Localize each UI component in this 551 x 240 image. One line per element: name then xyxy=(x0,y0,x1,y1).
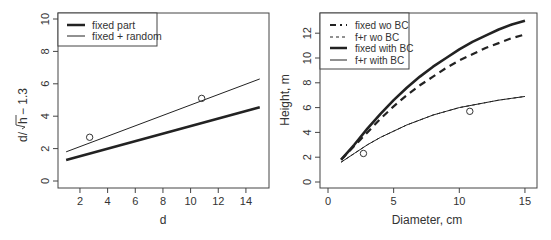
right-plot: 051015 024681012 Diameter, cm Height, m … xyxy=(278,13,537,227)
x-tick-label: 10 xyxy=(184,195,196,207)
left-y-label-suffix: − 1.3 xyxy=(16,88,30,115)
observation-point xyxy=(86,134,92,140)
y-tick-label: 0 xyxy=(39,178,51,184)
y-tick-label: 6 xyxy=(301,105,313,111)
left-x-axis-label: d xyxy=(160,213,167,227)
legend-label-fr-with-bc: f+r with BC xyxy=(355,55,404,66)
y-tick-label: 6 xyxy=(39,81,51,87)
x-tick-label: 6 xyxy=(132,195,138,207)
right-y-axis-label: Height, m xyxy=(278,74,292,125)
observation-point xyxy=(360,150,366,156)
x-tick-label: 0 xyxy=(325,195,331,207)
y-tick-label: 4 xyxy=(301,129,313,135)
x-tick-label: 5 xyxy=(391,195,397,207)
x-tick-label: 10 xyxy=(453,195,465,207)
figure-canvas: 2468101214 0246810 d d/ h − 1.3 fixed pa… xyxy=(0,0,551,240)
left-legend: fixed part fixed + random xyxy=(58,13,162,46)
right-x-axis-label: Diameter, cm xyxy=(392,213,463,227)
observation-point xyxy=(467,108,473,114)
x-tick-label: 14 xyxy=(240,195,252,207)
right-legend: fixed wo BC f+r wo BC fixed with BC f+r … xyxy=(320,13,413,69)
y-tick-label: 10 xyxy=(301,52,313,64)
left-x-axis: 2468101214 xyxy=(77,188,252,207)
right-observations xyxy=(360,108,473,157)
left-observations xyxy=(86,95,204,140)
left-y-label-root: h xyxy=(16,117,30,124)
y-tick-label: 12 xyxy=(301,27,313,39)
left-y-label-prefix: d/ xyxy=(16,131,30,142)
y-tick-label: 8 xyxy=(301,80,313,86)
left-plot: 2468101214 0246810 d d/ h − 1.3 fixed pa… xyxy=(16,13,269,227)
left-series xyxy=(66,79,260,160)
legend-label-fixed-wo-bc: fixed wo BC xyxy=(355,20,408,31)
x-tick-label: 2 xyxy=(77,195,83,207)
y-tick-label: 10 xyxy=(39,13,51,25)
y-tick-label: 8 xyxy=(39,48,51,54)
y-tick-label: 2 xyxy=(39,146,51,152)
x-tick-label: 15 xyxy=(519,195,531,207)
legend-label-fr-wo-bc: f+r wo BC xyxy=(355,32,399,43)
y-tick-label: 2 xyxy=(301,154,313,160)
y-tick-label: 0 xyxy=(301,179,313,185)
y-tick-label: 4 xyxy=(39,113,51,119)
series-line xyxy=(341,96,525,162)
x-tick-label: 8 xyxy=(160,195,166,207)
legend-label-fixed-random: fixed + random xyxy=(92,30,162,42)
left-y-axis-label: d/ h − 1.3 xyxy=(16,88,30,142)
x-tick-label: 12 xyxy=(212,195,224,207)
left-y-axis: 0246810 xyxy=(39,13,58,184)
right-x-axis: 051015 xyxy=(325,188,531,207)
series-line xyxy=(341,96,525,162)
x-tick-label: 4 xyxy=(105,195,111,207)
legend-label-fixed-with-bc: fixed with BC xyxy=(355,43,413,54)
right-y-axis: 024681012 xyxy=(301,27,320,185)
